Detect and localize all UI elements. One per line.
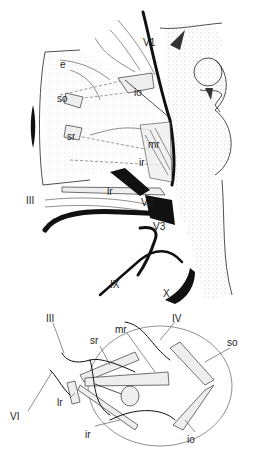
muscle-bundle [140,122,172,182]
leader-iii [53,323,64,353]
label-mr: mr [148,139,160,150]
label-v2: V2 [141,197,154,208]
label-e: e [60,59,66,70]
label-x: X [163,288,170,299]
label-ix: IX [110,279,120,290]
label-io-lower: io [187,434,195,445]
cornea-mark [31,105,36,148]
label-so-lower: so [227,337,238,348]
label-lr-lower: lr [57,397,63,408]
leader-sr [100,346,110,365]
label-io: io [134,87,142,98]
oculomotor-nerve-line [45,198,150,205]
optic-disc [121,386,139,406]
leader-io [185,420,195,432]
anatomical-diagram: V1 e so io sr mr ir lr III V2 V3 IX X [0,0,253,457]
label-vi: VI [10,411,19,422]
label-iv: IV [172,313,182,324]
label-sr: sr [67,131,76,142]
leader-iv [160,322,175,340]
label-mr-lower: mr [115,324,127,335]
label-iii: III [26,195,34,206]
label-ir-lower: ir [85,429,91,440]
label-v1: V1 [143,37,156,48]
label-v3: V3 [153,221,166,232]
leader-ir [95,420,120,426]
leader-vi [28,372,52,411]
superior-oblique-muscle [170,342,214,385]
lower-panel: III IV mr sr so VI lr ir io [10,313,238,446]
label-sr-lower: sr [90,335,99,346]
label-iii-lower: III [46,313,54,324]
leader-mr [127,333,155,372]
abducens-nerve [50,370,70,395]
lateral-rectus-muscle [67,381,80,404]
thin-nerve [110,30,140,70]
label-ir: ir [139,157,145,168]
inferior-oblique-muscle [173,385,214,430]
label-lr: lr [107,186,113,197]
lateral-rectus-muscle [62,187,165,195]
upper-panel: V1 e so io sr mr ir lr III V2 V3 IX X [26,12,232,304]
label-so: so [57,93,68,104]
